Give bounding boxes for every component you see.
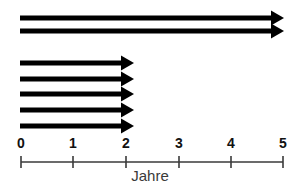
arrow-5 [20,87,134,102]
axis-tick-label-3: 3 [175,136,183,150]
axis-tick-label-4: 4 [227,136,235,150]
arrow-5-head [121,87,134,102]
arrow-6 [20,103,134,118]
arrows-group [20,11,284,134]
arrow-4-head [121,72,134,87]
arrow-2 [20,24,284,39]
arrow-7 [20,119,134,134]
arrow-6-shaft [20,108,122,113]
axis-tick-label-5: 5 [279,136,287,150]
timeline-diagram: 012345 Jahre [0,0,299,188]
arrow-2-head [271,24,284,39]
arrow-7-head [121,119,134,134]
arrow-7-shaft [20,124,122,129]
axis-tick-label-2: 2 [122,136,130,150]
arrow-2-shaft [20,29,272,34]
arrow-1-head [271,11,284,26]
arrow-1-shaft [20,16,272,21]
arrow-3-head [121,56,134,71]
arrow-4 [20,72,134,87]
arrow-5-shaft [20,92,122,97]
axis-tick-label-1: 1 [69,136,77,150]
arrow-4-shaft [20,77,122,82]
axis-tick-label-0: 0 [17,136,25,150]
axis-title: Jahre [131,168,169,183]
arrow-1 [20,11,284,26]
arrow-3 [20,56,134,71]
arrow-layer [0,0,299,188]
arrow-3-shaft [20,61,122,66]
arrow-6-head [121,103,134,118]
